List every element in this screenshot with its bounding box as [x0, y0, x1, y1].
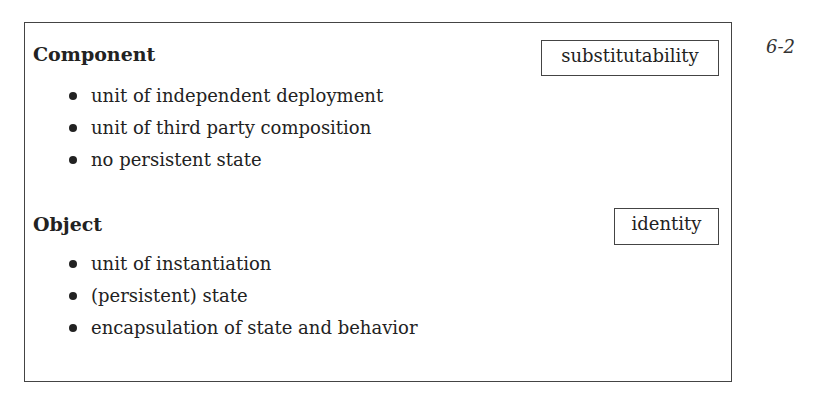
list-item: unit of instantiation: [69, 248, 418, 280]
bullet-icon: [69, 92, 77, 100]
bullet-icon: [69, 156, 77, 164]
list-item: no persistent state: [69, 144, 383, 176]
list-item: (persistent) state: [69, 280, 418, 312]
bullet-icon: [69, 260, 77, 268]
slide-number: 6-2: [766, 36, 795, 57]
bullet-icon: [69, 324, 77, 332]
list-item: unit of independent deployment: [69, 80, 383, 112]
section-heading-object: Object: [33, 213, 102, 235]
section-heading-component: Component: [33, 43, 155, 65]
tag-substitutability: substitutability: [541, 40, 719, 76]
tag-identity: identity: [614, 208, 719, 245]
list-item: encapsulation of state and behavior: [69, 312, 418, 344]
bullet-icon: [69, 124, 77, 132]
slide-frame: Component substitutability unit of indep…: [24, 22, 732, 382]
list-item: unit of third party composition: [69, 112, 383, 144]
bullet-icon: [69, 292, 77, 300]
object-list: unit of instantiation (persistent) state…: [69, 248, 418, 344]
component-list: unit of independent deployment unit of t…: [69, 80, 383, 176]
